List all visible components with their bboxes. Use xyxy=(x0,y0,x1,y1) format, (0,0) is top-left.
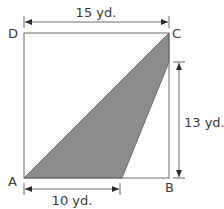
vertex-label-c: C xyxy=(172,26,181,41)
geometry-diagram: D C A B 15 yd. 13 yd. 10 yd. xyxy=(0,0,224,209)
top-dimension-label: 15 yd. xyxy=(76,5,117,20)
vertex-label-b: B xyxy=(165,180,174,195)
vertex-label-a: A xyxy=(8,174,17,189)
bottom-dimension-label: 10 yd. xyxy=(52,193,93,208)
vertex-label-d: D xyxy=(8,26,18,41)
shaded-region xyxy=(24,33,169,178)
right-dimension-label: 13 yd. xyxy=(184,115,224,130)
